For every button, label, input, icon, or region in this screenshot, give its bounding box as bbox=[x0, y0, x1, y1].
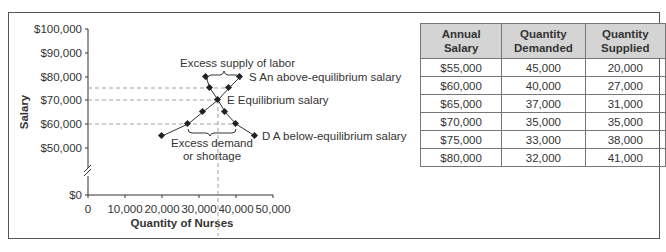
y-tick-label: $80,000 bbox=[40, 71, 82, 83]
cell-salary: $80,000 bbox=[421, 149, 502, 167]
excess-demand-label-2: or shortage bbox=[183, 150, 241, 162]
cell-salary: $75,000 bbox=[421, 131, 502, 149]
table-row: $60,00040,00027,000 bbox=[421, 77, 666, 95]
equilibrium-label: E Equilibrium salary bbox=[227, 94, 329, 106]
cell-salary: $65,000 bbox=[421, 95, 502, 113]
y-axis-title: Salary bbox=[18, 94, 30, 129]
table-row: $80,00032,00041,000 bbox=[421, 149, 666, 167]
cell-salary: $55,000 bbox=[421, 59, 502, 77]
table-row: $65,00037,00031,000 bbox=[421, 95, 666, 113]
excess-demand-bracket bbox=[188, 129, 236, 136]
x-tick-label: 50,000 bbox=[255, 203, 290, 215]
cell-demanded: 37,000 bbox=[502, 95, 585, 113]
excess-supply-bracket bbox=[207, 71, 240, 80]
supply-label: S An above-equilibrium salary bbox=[249, 71, 401, 83]
x-tick-label: 40,000 bbox=[218, 203, 253, 215]
cell-demanded: 35,000 bbox=[502, 113, 585, 131]
cell-supplied: 41,000 bbox=[585, 149, 665, 167]
y-tick-label: $0 bbox=[69, 189, 82, 201]
cell-demanded: 40,000 bbox=[502, 77, 585, 95]
demand-label: D A below-equilibrium salary bbox=[262, 130, 407, 142]
cell-salary: $70,000 bbox=[421, 113, 502, 131]
y-tick-label: $100,000 bbox=[34, 23, 82, 35]
table-header-row: AnnualSalary QuantityDemanded QuantitySu… bbox=[421, 24, 666, 59]
cell-demanded: 33,000 bbox=[502, 131, 585, 149]
cell-supplied: 38,000 bbox=[585, 131, 665, 149]
cell-supplied: 27,000 bbox=[585, 77, 665, 95]
cell-supplied: 31,000 bbox=[585, 95, 665, 113]
x-tick-label: 20,000 bbox=[144, 203, 179, 215]
x-tick-label: 0 bbox=[85, 203, 91, 215]
cell-demanded: 45,000 bbox=[502, 59, 585, 77]
x-tick-label: 30,000 bbox=[181, 203, 216, 215]
table-row: $55,00045,00020,000 bbox=[421, 59, 666, 77]
y-tick-label: $50,000 bbox=[40, 142, 82, 154]
header-annual-salary: AnnualSalary bbox=[421, 24, 502, 59]
y-tick-label: $90,000 bbox=[40, 47, 82, 59]
header-quantity-demanded: QuantityDemanded bbox=[502, 24, 585, 59]
y-tick-label: $60,000 bbox=[40, 118, 82, 130]
excess-supply-label: Excess supply of labor bbox=[180, 57, 295, 69]
cell-supplied: 35,000 bbox=[585, 113, 665, 131]
x-tick-label: 10,000 bbox=[107, 203, 142, 215]
cell-demanded: 32,000 bbox=[502, 149, 585, 167]
cell-supplied: 20,000 bbox=[585, 59, 665, 77]
excess-demand-label: Excess demand bbox=[171, 137, 253, 149]
y-tick-label: $70,000 bbox=[40, 94, 82, 106]
cell-salary: $60,000 bbox=[421, 77, 502, 95]
header-quantity-supplied: QuantitySupplied bbox=[585, 24, 665, 59]
table-row: $70,00035,00035,000 bbox=[421, 113, 666, 131]
salary-table: AnnualSalary QuantityDemanded QuantitySu… bbox=[420, 23, 666, 167]
table-row: $75,00033,00038,000 bbox=[421, 131, 666, 149]
